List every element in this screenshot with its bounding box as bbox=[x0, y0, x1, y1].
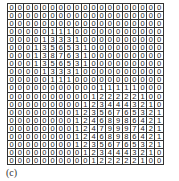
grid-cell: 0 bbox=[131, 52, 139, 60]
grid-cell: 0 bbox=[131, 68, 139, 76]
grid-cell: 0 bbox=[57, 4, 65, 12]
grid-cell: 2 bbox=[98, 93, 106, 101]
grid-cell: 0 bbox=[74, 157, 82, 165]
grid-cell: 4 bbox=[106, 149, 114, 157]
grid-cell: 0 bbox=[8, 52, 16, 60]
grid-cell: 0 bbox=[49, 109, 57, 117]
grid-cell: 0 bbox=[147, 52, 155, 60]
grid-cell: 0 bbox=[123, 76, 131, 84]
grid-cell: 0 bbox=[57, 101, 65, 109]
grid-cell: 1 bbox=[74, 141, 82, 149]
grid-cell: 1 bbox=[155, 125, 163, 133]
grid-cell: 1 bbox=[155, 117, 163, 125]
grid-cell: 0 bbox=[98, 44, 106, 52]
grid-cell: 1 bbox=[82, 52, 90, 60]
grid-cell: 0 bbox=[33, 117, 41, 125]
grid-cell: 4 bbox=[114, 149, 122, 157]
grid-cell: 0 bbox=[33, 133, 41, 141]
grid-cell: 0 bbox=[8, 157, 16, 165]
grid-cell: 0 bbox=[16, 117, 24, 125]
grid-cell: 0 bbox=[65, 12, 73, 20]
grid-cell: 0 bbox=[131, 36, 139, 44]
grid-cell: 1 bbox=[82, 44, 90, 52]
grid-cell: 0 bbox=[123, 68, 131, 76]
grid-cell: 0 bbox=[24, 109, 32, 117]
grid-cell: 0 bbox=[155, 157, 163, 165]
grid-cell: 0 bbox=[8, 12, 16, 20]
grid-cell: 0 bbox=[74, 93, 82, 101]
grid-cell: 0 bbox=[49, 12, 57, 20]
grid-cell: 3 bbox=[57, 36, 65, 44]
grid-cell: 0 bbox=[8, 84, 16, 92]
grid-cell: 0 bbox=[139, 28, 147, 36]
grid-cell: 0 bbox=[8, 117, 16, 125]
grid-cell: 0 bbox=[16, 36, 24, 44]
grid-cell: 0 bbox=[131, 4, 139, 12]
grid-cell: 1 bbox=[147, 101, 155, 109]
grid-cell: 2 bbox=[147, 117, 155, 125]
grid-cell: 6 bbox=[57, 44, 65, 52]
grid-cell: 3 bbox=[131, 101, 139, 109]
grid-cell: 0 bbox=[24, 101, 32, 109]
grid-cell: 2 bbox=[106, 93, 114, 101]
grid-cell: 7 bbox=[114, 109, 122, 117]
grid-cell: 0 bbox=[16, 44, 24, 52]
grid-cell: 0 bbox=[90, 60, 98, 68]
grid-cell: 5 bbox=[65, 60, 73, 68]
grid-cell: 0 bbox=[16, 157, 24, 165]
grid-cell: 7 bbox=[114, 141, 122, 149]
grid-cell: 0 bbox=[147, 28, 155, 36]
grid-cell: 0 bbox=[24, 76, 32, 84]
grid-cell: 0 bbox=[98, 76, 106, 84]
grid-cell: 0 bbox=[74, 20, 82, 28]
grid-cell: 0 bbox=[106, 76, 114, 84]
grid-cell: 6 bbox=[123, 109, 131, 117]
grid-cell: 0 bbox=[139, 68, 147, 76]
grid-cell: 0 bbox=[155, 76, 163, 84]
grid-cell: 0 bbox=[147, 44, 155, 52]
grid-cell: 6 bbox=[57, 60, 65, 68]
grid-cell: 0 bbox=[24, 44, 32, 52]
grid-cell: 0 bbox=[16, 60, 24, 68]
grid-cell: 7 bbox=[131, 125, 139, 133]
grid-cell: 0 bbox=[123, 60, 131, 68]
grid-cell: 0 bbox=[90, 28, 98, 36]
grid-cell: 1 bbox=[139, 93, 147, 101]
grid-cell: 0 bbox=[65, 109, 73, 117]
grid-cell: 4 bbox=[139, 133, 147, 141]
grid-cell: 0 bbox=[16, 68, 24, 76]
grid-cell: 0 bbox=[65, 4, 73, 12]
grid-cell: 0 bbox=[139, 44, 147, 52]
grid-cell: 0 bbox=[139, 52, 147, 60]
grid-cell: 1 bbox=[74, 109, 82, 117]
grid-cell: 0 bbox=[49, 84, 57, 92]
grid-cell: 3 bbox=[49, 68, 57, 76]
grid-cell: 0 bbox=[82, 12, 90, 20]
grid-cell: 0 bbox=[114, 60, 122, 68]
grid-cell: 3 bbox=[139, 141, 147, 149]
grid-cell: 1 bbox=[74, 125, 82, 133]
grid-cell: 2 bbox=[82, 141, 90, 149]
grid-cell: 0 bbox=[57, 149, 65, 157]
grid-cell: 0 bbox=[49, 117, 57, 125]
grid-cell: 0 bbox=[8, 68, 16, 76]
grid-cell: 0 bbox=[65, 149, 73, 157]
grid-cell: 0 bbox=[123, 52, 131, 60]
grid-cell: 1 bbox=[90, 93, 98, 101]
grid-cell: 0 bbox=[8, 93, 16, 101]
grid-cell: 0 bbox=[24, 36, 32, 44]
grid-cell: 1 bbox=[82, 101, 90, 109]
grid-cell: 0 bbox=[24, 141, 32, 149]
grid-cell: 0 bbox=[33, 36, 41, 44]
grid-cell: 0 bbox=[8, 44, 16, 52]
grid-cell: 0 bbox=[106, 44, 114, 52]
grid-cell: 0 bbox=[8, 101, 16, 109]
grid-cell: 5 bbox=[49, 44, 57, 52]
grid-cell: 3 bbox=[98, 149, 106, 157]
grid-cell: 0 bbox=[49, 157, 57, 165]
grid-cell: 0 bbox=[57, 157, 65, 165]
grid-cell: 2 bbox=[147, 125, 155, 133]
grid-cell: 0 bbox=[90, 4, 98, 12]
grid-cell: 0 bbox=[41, 84, 49, 92]
grid-cell: 0 bbox=[155, 52, 163, 60]
